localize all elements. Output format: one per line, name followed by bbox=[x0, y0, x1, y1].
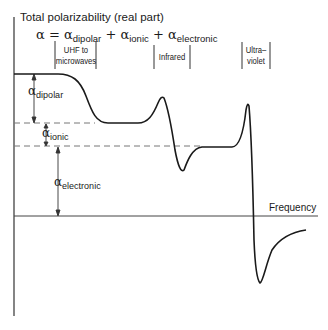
band-label-uhf: UHF to microwaves bbox=[54, 45, 98, 67]
x-axis-label: Frequency bbox=[269, 202, 316, 213]
label-alpha-electronic: αelectronic bbox=[54, 175, 101, 189]
diagram-title: Total polarizability (real part) bbox=[20, 11, 164, 23]
equation-lhs: α = bbox=[36, 27, 64, 42]
polarizability-diagram bbox=[0, 0, 328, 330]
equation-term-ionic: αionic bbox=[120, 27, 148, 42]
band-label-infrared: Infrared bbox=[155, 52, 189, 63]
label-alpha-dipolar: αdipolar bbox=[28, 84, 63, 98]
plus-sign: + bbox=[153, 27, 164, 42]
equation-term-electronic: αelectronic bbox=[168, 27, 217, 42]
label-alpha-ionic: αionic bbox=[42, 126, 69, 140]
plus-sign: + bbox=[105, 27, 116, 42]
band-label-ultraviolet: Ultra– violet bbox=[242, 45, 269, 67]
equation-term-dipolar: αdipolar bbox=[64, 27, 101, 42]
polarizability-equation: α = αdipolar + αionic + αelectronic bbox=[36, 27, 217, 42]
